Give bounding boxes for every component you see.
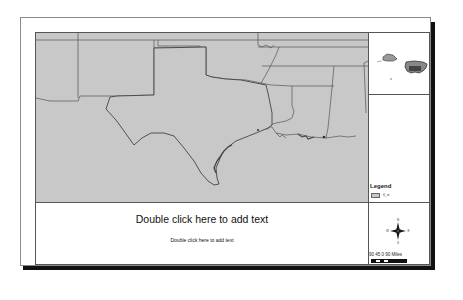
svg-text:E: E <box>407 229 409 233</box>
svg-text:N: N <box>397 218 399 222</box>
state-boundaries <box>36 33 368 202</box>
map-title-placeholder[interactable]: Double click here to add text <box>36 213 368 225</box>
north-arrow-icon[interactable]: N E S W <box>386 218 410 244</box>
scale-bar-labels: 90 45 0 90 Miles <box>369 252 402 257</box>
scale-segment <box>372 260 376 262</box>
legend-title: Legend <box>370 183 391 189</box>
overview-inset-map[interactable] <box>369 33 429 94</box>
legend-item-label: tl_st <box>383 193 389 197</box>
scale-segment <box>388 260 406 262</box>
divider-map-bottom <box>36 202 368 203</box>
scale-segment <box>380 260 384 262</box>
svg-text:W: W <box>386 229 389 233</box>
legend-swatch-icon <box>371 193 380 198</box>
divider-legend-bottom <box>369 202 429 203</box>
svg-text:S: S <box>397 241 399 245</box>
map-subtitle-placeholder[interactable]: Double click here to add text <box>36 237 368 243</box>
us-locator-map <box>369 33 429 94</box>
scale-bar <box>371 259 407 263</box>
divider-inset-bottom <box>369 94 429 95</box>
main-map-frame[interactable] <box>36 33 368 202</box>
